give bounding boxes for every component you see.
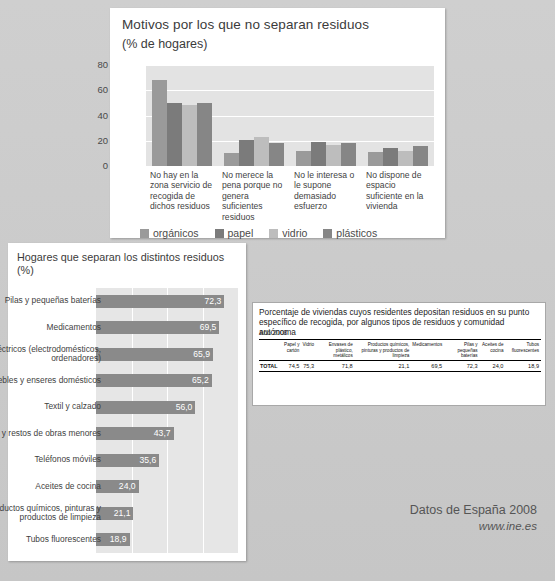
table-column-header: Pilas y pequeñas baterías xyxy=(444,340,479,361)
table-cell: 69,5 xyxy=(411,360,444,371)
category-label: Teléfonos móviles xyxy=(0,455,101,465)
category-label: Muebles y enseres domésticos xyxy=(0,376,101,386)
legend-label: vidrio xyxy=(282,227,307,239)
bar-papel xyxy=(311,142,326,166)
bar-plásticos xyxy=(197,103,212,166)
legend-item: papel xyxy=(215,227,254,239)
category-label: Textil y calzado xyxy=(0,402,101,412)
bar-0: 72,3 xyxy=(96,295,224,308)
table-cell: 18,9 xyxy=(505,360,541,371)
bar-1: 69,5 xyxy=(96,321,219,334)
table-year: Año 2008 xyxy=(259,329,287,336)
x-axis-label: No le interesa o le supone demasiado esf… xyxy=(294,170,358,212)
bar-vidrio xyxy=(326,145,341,166)
x-axis-label: No hay en la zona servicio de recogida d… xyxy=(150,170,214,212)
bar-papel xyxy=(167,103,182,166)
bar-papel xyxy=(383,148,398,166)
legend-item: orgánicos xyxy=(140,227,199,239)
table-cell: 21,1 xyxy=(355,360,412,371)
table-header-row: Papel y cartónVidrioEnvases de plástico,… xyxy=(259,340,541,361)
legend-swatch-icon xyxy=(140,229,149,238)
footer-url: www.ine.es xyxy=(410,520,537,532)
footer-credit: Datos de España 2008 www.ine.es xyxy=(410,503,537,532)
bar-group xyxy=(290,65,362,166)
bar-orgánicos xyxy=(296,151,311,166)
bar-5: 43,7 xyxy=(96,427,174,440)
bar-vidrio xyxy=(254,137,269,166)
table-column-header: Productos químicos, pinturas y productos… xyxy=(355,340,412,361)
table-corner-cell xyxy=(259,340,279,361)
bar-group xyxy=(218,65,290,166)
vertical-chart-legend: orgánicospapelvidrioplásticos xyxy=(140,227,387,239)
legend-label: papel xyxy=(228,227,254,239)
table-head: Papel y cartónVidrioEnvases de plástico,… xyxy=(259,340,541,361)
poster-canvas: Motivos por los que no separan residuos … xyxy=(0,0,555,581)
y-axis-tick: 60 xyxy=(82,84,108,95)
bar-plásticos xyxy=(341,143,356,166)
residuos-table: Papel y cartónVidrioEnvases de plástico,… xyxy=(259,339,541,372)
legend-swatch-icon xyxy=(269,229,278,238)
legend-item: plásticos xyxy=(323,227,377,239)
gridline xyxy=(238,288,239,553)
table-cell: 24,0 xyxy=(480,360,506,371)
y-axis-tick: 20 xyxy=(82,135,108,146)
y-axis-tick: 0 xyxy=(82,160,108,171)
table-column-header: Vidrio xyxy=(301,340,316,361)
table-column-header: Tubos fluorescentes xyxy=(505,340,541,361)
table-column-header: Papel y cartón xyxy=(279,340,301,361)
legend-label: plásticos xyxy=(336,227,377,239)
category-label: Pilas y pequeñas baterías xyxy=(0,296,101,306)
horizontal-chart-plot-area: 72,369,565,965,256,043,735,624,021,118,9 xyxy=(96,288,238,553)
category-label: Aceites de cocina xyxy=(0,482,101,492)
bar-papel xyxy=(239,140,254,167)
y-axis-tick: 40 xyxy=(82,110,108,121)
bar-9: 18,9 xyxy=(96,533,130,546)
data-table-panel: Porcentaje de viviendas cuyos residentes… xyxy=(252,302,546,406)
category-label: Aparatos eléctricos (electrodomésticos, … xyxy=(0,345,101,364)
bar-group xyxy=(362,65,434,166)
category-label: Productos químicos, pinturas y productos… xyxy=(0,504,101,523)
horizontal-bar-chart-panel: Hogares que separan los distintos residu… xyxy=(8,243,246,561)
bar-vidrio xyxy=(182,105,197,166)
bar-plásticos xyxy=(413,146,428,166)
table-row-header: TOTAL xyxy=(259,360,279,371)
bar-orgánicos xyxy=(368,152,383,166)
bar-group xyxy=(146,65,218,166)
bar-vidrio xyxy=(398,151,413,166)
table-row: TOTAL74,575,371,821,169,572,324,018,9 xyxy=(259,360,541,371)
bar-3: 65,2 xyxy=(96,374,212,387)
bar-orgánicos xyxy=(152,80,167,166)
bar-6: 35,6 xyxy=(96,454,159,467)
table-title: Porcentaje de viviendas cuyos residentes… xyxy=(259,307,543,337)
legend-swatch-icon xyxy=(323,229,332,238)
table-cell: 72,3 xyxy=(444,360,479,371)
bar-8: 21,1 xyxy=(96,507,133,520)
table-body: TOTAL74,575,371,821,169,572,324,018,9 xyxy=(259,360,541,371)
vertical-chart-subtitle: (% de hogares) xyxy=(122,37,207,51)
bar-4: 56,0 xyxy=(96,401,195,414)
horizontal-chart-title: Hogares que separan los distintos residu… xyxy=(17,251,241,277)
table-cell: 71,8 xyxy=(316,360,355,371)
table-column-header: Aceites de cocina xyxy=(480,340,506,361)
bar-orgánicos xyxy=(224,153,239,166)
legend-swatch-icon xyxy=(215,229,224,238)
bar-2: 65,9 xyxy=(96,348,213,361)
category-label: Tubos fluorescentes xyxy=(0,535,101,545)
y-axis-tick: 80 xyxy=(82,59,108,70)
category-label: Medicamentos xyxy=(0,323,101,333)
bar-7: 24,0 xyxy=(96,480,139,493)
vertical-chart-title: Motivos por los que no separan residuos xyxy=(122,17,369,32)
vertical-chart-plot-area xyxy=(146,65,434,166)
legend-item: vidrio xyxy=(269,227,307,239)
bar-plásticos xyxy=(269,143,284,166)
table-cell: 75,3 xyxy=(301,360,316,371)
vertical-bar-chart-panel: Motivos por los que no separan residuos … xyxy=(110,8,445,238)
table-cell: 74,5 xyxy=(279,360,301,371)
footer-source: Datos de España 2008 xyxy=(410,503,537,517)
table-column-header: Medicamentos xyxy=(411,340,444,361)
gridline xyxy=(146,166,434,167)
x-axis-label: No merece la pena porque no genera sufic… xyxy=(222,170,286,222)
category-label: Escombros y restos de obras menores xyxy=(0,429,101,439)
x-axis-label: No dispone de espacio suficiente en la v… xyxy=(366,170,430,212)
table-column-header: Envases de plástico, metálicos xyxy=(316,340,355,361)
